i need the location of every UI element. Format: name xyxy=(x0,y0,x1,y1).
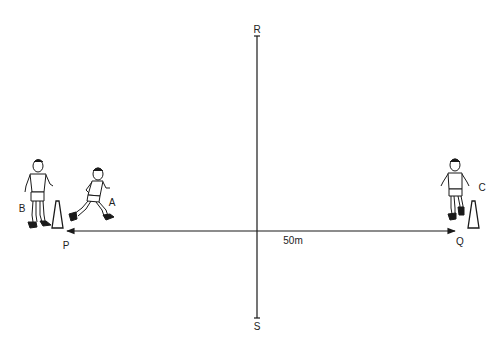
player-b-figure xyxy=(25,160,53,229)
label-s: S xyxy=(254,321,261,332)
distance-label: 50m xyxy=(283,235,302,246)
label-player-b: B xyxy=(19,203,26,214)
label-r: R xyxy=(253,24,260,35)
label-q: Q xyxy=(456,236,464,247)
label-player-c: C xyxy=(478,182,485,193)
player-a-figure xyxy=(69,168,114,221)
cone-q-icon xyxy=(468,201,479,228)
field-diagram: R S 50m P Q B xyxy=(0,0,500,345)
diagram-canvas: R S 50m P Q B xyxy=(0,0,500,345)
cone-p-icon xyxy=(52,201,63,228)
label-player-a: A xyxy=(109,197,116,208)
player-c-figure xyxy=(441,159,469,220)
label-p: P xyxy=(63,240,70,251)
vertical-line-rs xyxy=(254,36,260,318)
